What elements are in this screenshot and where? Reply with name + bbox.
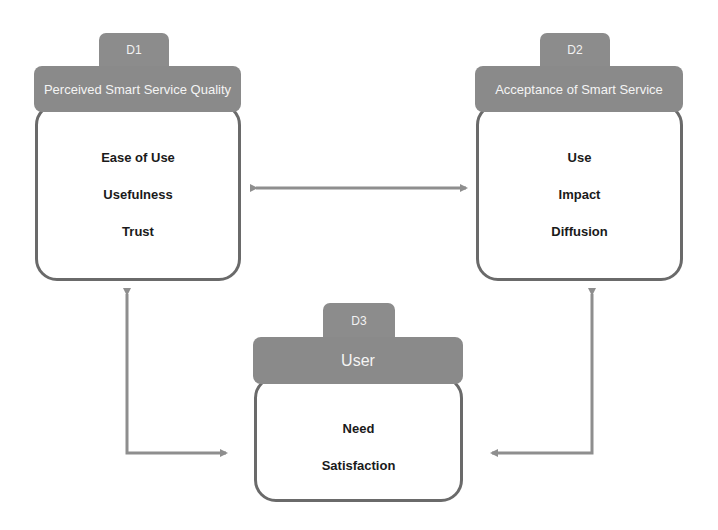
arrow-d2-d3 <box>492 294 592 453</box>
arrow-d1-d3 <box>127 294 226 453</box>
d3-box: Need Satisfaction <box>254 376 463 502</box>
d2-item-impact: Impact <box>559 187 601 202</box>
d3-tab-label: D3 <box>351 314 366 328</box>
d1-header: Perceived Smart Service Quality <box>34 66 241 112</box>
d1-item-ease-of-use: Ease of Use <box>101 150 175 165</box>
d3-header: User <box>253 337 463 384</box>
d2-tab: D2 <box>540 33 610 67</box>
d1-item-trust: Trust <box>122 224 154 239</box>
d2-header: Acceptance of Smart Service <box>475 66 683 112</box>
d2-title: Acceptance of Smart Service <box>495 82 663 97</box>
d1-title: Perceived Smart Service Quality <box>44 82 231 97</box>
d3-tab: D3 <box>323 303 395 338</box>
d2-item-diffusion: Diffusion <box>551 224 607 239</box>
d2-box: Use Impact Diffusion <box>476 103 683 281</box>
d3-title: User <box>341 352 375 370</box>
d3-item-satisfaction: Satisfaction <box>322 458 396 473</box>
d2-tab-label: D2 <box>567 43 582 57</box>
d1-tab-label: D1 <box>126 43 141 57</box>
d3-item-need: Need <box>343 421 375 436</box>
d1-box: Ease of Use Usefulness Trust <box>35 103 241 281</box>
d2-item-use: Use <box>568 150 592 165</box>
d1-item-usefulness: Usefulness <box>103 187 172 202</box>
d1-tab: D1 <box>99 33 169 67</box>
